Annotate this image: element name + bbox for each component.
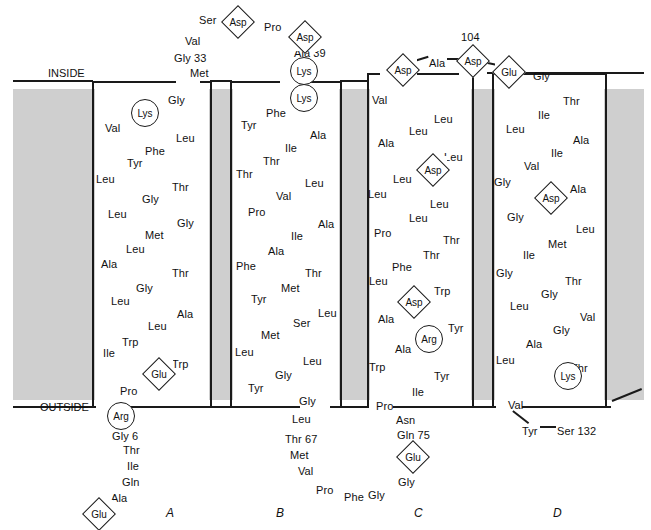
- marker-label: Asp: [405, 297, 422, 308]
- loop-residue-3: Met: [190, 68, 209, 79]
- loop-residue-10: Met: [290, 450, 309, 461]
- residue-a-18: Trp: [122, 337, 138, 348]
- residue-b-2: Ala: [310, 130, 326, 141]
- residue-a-17: Leu: [148, 321, 167, 332]
- membrane-line-inside-left: [13, 80, 93, 82]
- marker-asp-c-low: Asp: [400, 288, 428, 316]
- marker-label: Lys: [296, 66, 311, 77]
- residue-c-7: Leu: [430, 199, 449, 210]
- marker-glu-a-low: Glu: [145, 360, 173, 388]
- residue-c-0: Val: [372, 95, 387, 106]
- residue-d-5: Val: [524, 161, 539, 172]
- loop-residue-7: Gln: [122, 477, 139, 488]
- residue-a-3: Phe: [145, 146, 165, 157]
- helix-label-b: B: [276, 506, 284, 520]
- label-thr-67: Thr 67: [285, 434, 317, 445]
- marker-label: Asp: [229, 17, 246, 28]
- residue-d-15: Leu: [510, 301, 529, 312]
- helix-label-c: C: [414, 506, 423, 520]
- residue-b-22: Tyr: [248, 383, 264, 394]
- residue-b-18: Met: [261, 330, 280, 341]
- residue-c-6: Leu: [368, 189, 387, 200]
- residue-a-19: Ile: [103, 348, 115, 359]
- membrane-band-bc: [339, 89, 370, 400]
- label-inside: INSIDE: [48, 67, 85, 79]
- residue-d-21: Val: [508, 400, 523, 411]
- residue-d-17: Gly: [553, 325, 570, 336]
- loop-residue-6: Ile: [127, 461, 139, 472]
- marker-lys-b-2: Lys: [290, 84, 318, 112]
- residue-d-3: Ala: [573, 135, 589, 146]
- residue-c-14: Trp: [434, 286, 450, 297]
- marker-label: Asp: [394, 65, 411, 76]
- residue-c-10: Thr: [443, 235, 460, 246]
- marker-label: Asp: [296, 32, 313, 43]
- residue-d-8: Gly: [507, 212, 524, 223]
- marker-label: Asp: [542, 193, 559, 204]
- residue-d-7: Ala: [570, 184, 586, 195]
- label-104: 104: [461, 32, 480, 43]
- membrane-line-inside-ab: [210, 80, 232, 82]
- loop-residue-13: Phe: [344, 492, 364, 503]
- marker-label: Asp: [464, 56, 481, 67]
- marker-label: Lys: [296, 93, 311, 104]
- loop-residue-17: Pro: [376, 401, 393, 412]
- residue-c-19: Tyr: [434, 371, 450, 382]
- membrane-line-inside-bc: [340, 80, 369, 82]
- residue-b-10: Ile: [291, 231, 303, 242]
- loop-residue-14: Gly: [368, 490, 385, 501]
- residue-a-13: Thr: [172, 268, 189, 279]
- label-gly-33: Gly 33: [174, 53, 206, 64]
- residue-d-1: Ile: [538, 110, 550, 121]
- residue-c-11: Thr: [423, 250, 440, 261]
- marker-glu-c-term: Glu: [399, 443, 427, 471]
- residue-c-13: Leu: [369, 276, 388, 287]
- residue-b-4: Thr: [263, 156, 280, 167]
- residue-d-0: Thr: [563, 96, 580, 107]
- loop-residue-1: Pro: [264, 22, 281, 33]
- residue-a-4: Tyr: [127, 158, 143, 169]
- residue-c-5: Leu: [393, 174, 412, 185]
- residue-b-9: Ala: [318, 219, 334, 230]
- marker-label: Asp: [424, 165, 441, 176]
- residue-d-16: Val: [580, 312, 595, 323]
- label-gly-6: Gly 6: [112, 431, 138, 442]
- marker-lys-a-1: Lys: [131, 99, 159, 127]
- residue-c-16: Tyr: [448, 323, 464, 334]
- loop-residue-9: Leu: [292, 414, 311, 425]
- marker-label: Glu: [501, 67, 517, 78]
- residue-a-8: Leu: [108, 209, 127, 220]
- residue-a-14: Gly: [136, 283, 153, 294]
- residue-b-8: Pro: [248, 207, 265, 218]
- marker-label: Glu: [151, 369, 167, 380]
- connector-tyr-ser132: [540, 426, 556, 428]
- marker-asp-top-1: Asp: [224, 8, 252, 36]
- residue-b-17: Ser: [293, 318, 310, 329]
- marker-asp-d-mid: Asp: [537, 184, 565, 212]
- residue-c-12: Phe: [392, 262, 412, 273]
- marker-asp-c-mid: Asp: [419, 156, 447, 184]
- loop-residue-11: Val: [298, 466, 313, 477]
- residue-d-12: Gly: [496, 268, 513, 279]
- residue-b-14: Met: [281, 283, 300, 294]
- label-tyr-132: Tyr: [522, 426, 538, 437]
- marker-label: Glu: [91, 509, 107, 520]
- marker-asp-top-2: Asp: [291, 23, 319, 51]
- residue-c-15: Ala: [378, 314, 394, 325]
- residue-c-2: Leu: [409, 126, 428, 137]
- marker-arg-a: Arg: [107, 402, 135, 430]
- residue-c-1: Leu: [434, 114, 453, 125]
- residue-a-6: Thr: [172, 182, 189, 193]
- residue-c-9: Pro: [374, 228, 391, 239]
- marker-glu-d-top: Glu: [495, 58, 523, 86]
- residue-b-13: Thr: [305, 268, 322, 279]
- residue-d-13: Thr: [565, 276, 582, 287]
- marker-lys-b-1: Lys: [290, 57, 318, 85]
- residue-b-7: Val: [276, 191, 291, 202]
- residue-b-11: Ala: [268, 246, 284, 257]
- residue-a-12: Ala: [101, 259, 117, 270]
- residue-b-21: Gly: [275, 370, 292, 381]
- residue-a-2: Leu: [176, 133, 195, 144]
- marker-label: Lys: [137, 108, 152, 119]
- residue-d-18: Ala: [526, 339, 542, 350]
